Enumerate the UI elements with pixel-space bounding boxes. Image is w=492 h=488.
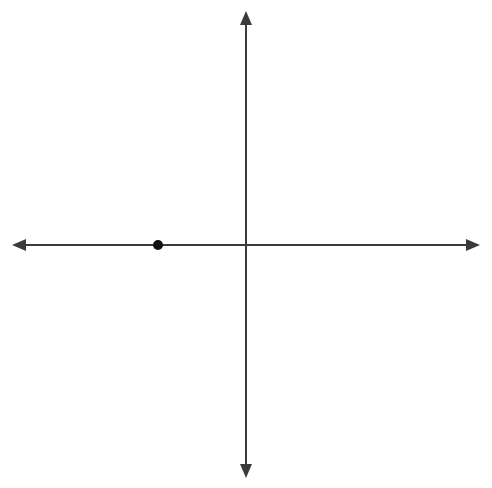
axis-lines [14,13,478,476]
y-axis-down-arrow-icon [240,464,252,478]
y-axis-up-arrow-icon [240,11,252,25]
point-c-marker [153,240,163,250]
graph-canvas [0,0,492,488]
x-axis-left-arrow-icon [12,239,26,251]
plotted-points-group [153,240,163,250]
coordinate-plane-graph [0,0,492,488]
x-axis-right-arrow-icon [466,239,480,251]
